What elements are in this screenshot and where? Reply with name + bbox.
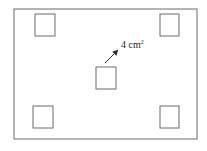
- outer-rectangle: [14, 9, 197, 139]
- area-label: 4 cm2: [121, 39, 144, 50]
- square-bottom-left: [33, 106, 53, 128]
- square-top-left: [35, 14, 55, 36]
- pointer-arrow-icon: [105, 51, 117, 63]
- diagram-canvas: 4 cm2: [0, 0, 207, 151]
- area-exponent: 2: [141, 39, 144, 45]
- square-bottom-right: [160, 106, 179, 128]
- square-top-right: [160, 14, 179, 36]
- square-center: [96, 67, 116, 89]
- area-unit: cm: [129, 39, 141, 50]
- area-value: 4: [121, 39, 126, 50]
